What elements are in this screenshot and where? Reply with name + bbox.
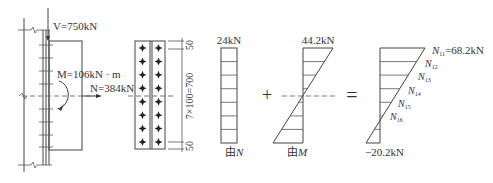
result-bottom-value: −20.2kN [365, 146, 404, 158]
moment-top-value: 44.2kN [302, 34, 335, 46]
dim-top-label: 50 [184, 40, 195, 50]
bolt-force-diagram: V=750kN M=106kN · m N=384kN 50 7×100=700… [0, 0, 493, 183]
axial-caption: 由N [225, 145, 244, 158]
bolt-icon [155, 98, 163, 106]
bolt-icon [139, 125, 147, 133]
axial-divisions [221, 62, 237, 130]
moment-arrow-head [57, 104, 64, 111]
bolt-icon [139, 71, 147, 79]
bolt-label-n15: N15 [397, 98, 411, 110]
bolt-icon [139, 84, 147, 92]
axial-arrow-head [96, 94, 102, 98]
resultant-force-diagram: N11=68.2kN N12 N13 N14 N15 N16 −20.2kN [365, 44, 484, 158]
bolt-icon [139, 111, 147, 119]
connection-plate [49, 41, 82, 150]
axial-top-value: 24kN [217, 34, 242, 46]
plus-operator: + [262, 85, 272, 105]
bolt-label-n14: N14 [407, 85, 421, 97]
dim-bottom-label: 50 [184, 141, 195, 151]
bolt-label-n16: N16 [389, 111, 403, 123]
moment-arrow-arc [59, 81, 68, 108]
moment-label: M=106kN · m [57, 68, 121, 80]
equals-operator: = [346, 84, 357, 106]
axial-force-label: N=384kN [90, 82, 134, 94]
break-line-top [18, 27, 50, 33]
bolt-icon [155, 71, 163, 79]
result-top-label: N11=68.2kN [431, 44, 484, 57]
bolt-icon [155, 44, 163, 52]
bolt-icon [155, 57, 163, 65]
bolt-label-n12: N12 [424, 58, 438, 70]
axial-force-diagram: 24kN 由N [217, 34, 244, 158]
break-line-bottom [18, 162, 52, 168]
shear-force-label: V=750kN [53, 20, 97, 32]
bolt-icon [139, 98, 147, 106]
connection-sketch: V=750kN M=106kN · m N=384kN [18, 8, 134, 172]
bolt-icon [155, 138, 163, 146]
dim-middle-label: 7×100=700 [184, 73, 195, 119]
moment-caption: 由M [287, 145, 308, 158]
bolt-icon [139, 44, 147, 52]
bolt-icon [155, 84, 163, 92]
bolt-icon [155, 111, 163, 119]
axial-block [221, 48, 237, 143]
bolt-icon [139, 57, 147, 65]
bolt-label-n13: N13 [417, 71, 431, 83]
moment-force-diagram: 44.2kN 由M [273, 34, 335, 158]
bolt-layout: 50 7×100=700 50 [128, 38, 195, 152]
bolt-icon [155, 125, 163, 133]
bolt-icon [139, 138, 147, 146]
